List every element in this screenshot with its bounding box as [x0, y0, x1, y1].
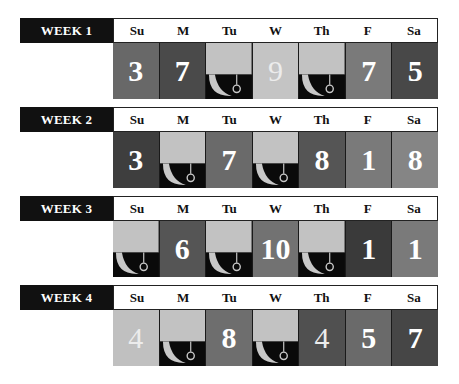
day-value-cell: 4: [299, 310, 346, 366]
day-header-row: SuMTuWThFSa: [113, 107, 438, 132]
day-header: Sa: [391, 197, 437, 220]
week-label: WEEK 4: [20, 285, 113, 310]
day-value-cell: 1: [392, 221, 438, 277]
day-value-cell: 7: [206, 132, 253, 188]
hook-moon-icon: [253, 310, 299, 366]
week-label: WEEK 2: [20, 107, 113, 132]
hook-moon-icon: [299, 221, 345, 277]
icon-day-cell: [113, 221, 160, 277]
day-value-cell: 7: [160, 43, 207, 99]
day-header-row: SuMTuWThFSa: [113, 18, 438, 43]
day-header: Su: [114, 286, 160, 309]
week-row: WEEK 3SuMTuWThFSa61011: [20, 196, 438, 277]
day-value-cell: 3: [113, 132, 160, 188]
day-value-cell: 7: [392, 310, 438, 366]
hook-moon-icon: [206, 43, 252, 99]
day-value-cell: 10: [253, 221, 300, 277]
icon-day-cell: [206, 221, 253, 277]
day-header: Sa: [391, 108, 437, 131]
day-header: Th: [299, 108, 345, 131]
week-label: WEEK 1: [20, 18, 113, 43]
day-header: Su: [114, 197, 160, 220]
hook-moon-icon: [206, 221, 252, 277]
day-header: Tu: [206, 108, 252, 131]
day-header: Su: [114, 108, 160, 131]
day-cells-row: 48457: [113, 310, 438, 366]
week-label: WEEK 3: [20, 196, 113, 221]
day-header: W: [252, 197, 298, 220]
day-header: W: [252, 286, 298, 309]
day-header: W: [252, 19, 298, 42]
icon-day-cell: [253, 310, 300, 366]
day-value-cell: 8: [299, 132, 346, 188]
day-value-cell: 1: [346, 221, 393, 277]
day-cells-row: 37975: [113, 43, 438, 99]
day-header: Th: [299, 19, 345, 42]
hook-moon-icon: [160, 132, 206, 188]
day-value-cell: 4: [113, 310, 160, 366]
day-header: Sa: [391, 19, 437, 42]
day-header: Tu: [206, 19, 252, 42]
icon-day-cell: [206, 43, 253, 99]
day-header: Sa: [391, 286, 437, 309]
day-header: F: [345, 19, 391, 42]
day-cells-row: 61011: [113, 221, 438, 277]
icon-day-cell: [160, 132, 207, 188]
day-header-row: SuMTuWThFSa: [113, 285, 438, 310]
icon-day-cell: [160, 310, 207, 366]
day-value-cell: 8: [206, 310, 253, 366]
day-value-cell: 5: [346, 310, 393, 366]
hook-moon-icon: [113, 221, 159, 277]
day-value-cell: 5: [392, 43, 438, 99]
day-header: F: [345, 197, 391, 220]
hook-moon-icon: [253, 132, 299, 188]
day-value-cell: 3: [113, 43, 160, 99]
day-value-cell: 1: [346, 132, 393, 188]
day-header: Tu: [206, 197, 252, 220]
day-header: M: [160, 286, 206, 309]
day-value-cell: 7: [346, 43, 393, 99]
week-row: WEEK 2SuMTuWThFSa37818: [20, 107, 438, 188]
day-value-cell: 9: [253, 43, 300, 99]
hook-moon-icon: [299, 43, 345, 99]
icon-day-cell: [299, 43, 346, 99]
hook-moon-icon: [160, 310, 206, 366]
day-header: M: [160, 197, 206, 220]
day-value-cell: 6: [160, 221, 207, 277]
day-header: F: [345, 286, 391, 309]
day-value-cell: 8: [392, 132, 438, 188]
day-header: Th: [299, 197, 345, 220]
icon-day-cell: [253, 132, 300, 188]
icon-day-cell: [299, 221, 346, 277]
day-header: Su: [114, 19, 160, 42]
day-cells-row: 37818: [113, 132, 438, 188]
day-header: Tu: [206, 286, 252, 309]
week-row: WEEK 4SuMTuWThFSa48457: [20, 285, 438, 366]
day-header: M: [160, 19, 206, 42]
day-header: W: [252, 108, 298, 131]
day-header-row: SuMTuWThFSa: [113, 196, 438, 221]
week-row: WEEK 1SuMTuWThFSa37975: [20, 18, 438, 99]
day-header: F: [345, 108, 391, 131]
day-header: M: [160, 108, 206, 131]
day-header: Th: [299, 286, 345, 309]
